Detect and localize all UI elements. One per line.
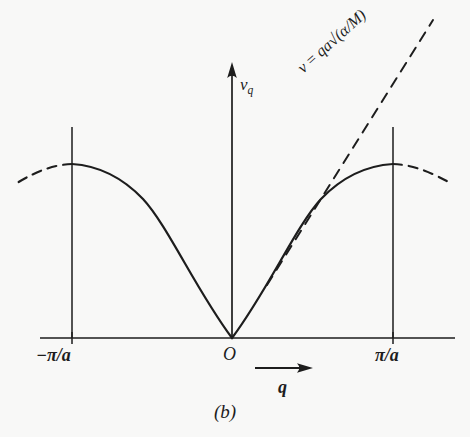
dispersion-dashed-right-continuation <box>393 164 452 184</box>
y-axis-label-symbol: ν <box>240 75 248 94</box>
dispersion-curve-left-branch <box>72 164 232 338</box>
x-axis-label: q <box>278 378 287 396</box>
x-tick-label-origin: O <box>223 345 236 363</box>
phonon-dispersion-figure: νq −π/a O π/a q ν = qa√(α/M) (b) <box>0 0 470 437</box>
figure-caption: (b) <box>214 402 236 421</box>
dispersion-dashed-left-continuation <box>17 164 72 183</box>
y-axis-label-subscript: q <box>248 84 254 97</box>
x-tick-label-minus-pi-over-a: −π/a <box>36 346 71 364</box>
asymptote-dashed-line <box>267 20 433 285</box>
dispersion-curve-right-branch <box>232 164 393 338</box>
y-axis-arrowhead <box>227 62 237 78</box>
dispersion-plot-svg <box>0 0 470 437</box>
q-direction-arrowhead <box>297 363 313 373</box>
y-axis-label: νq <box>240 76 253 96</box>
x-tick-label-pi-over-a: π/a <box>375 346 399 364</box>
